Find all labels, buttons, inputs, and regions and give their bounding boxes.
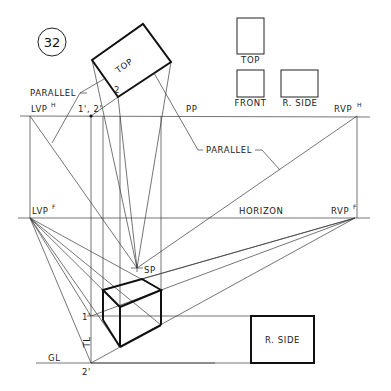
- lvp-f-superscript: F: [52, 203, 56, 210]
- point-1-2-marker: [89, 114, 92, 117]
- perspective-drawing: 32 TOP FRONT R. SIDE: [0, 0, 391, 391]
- top-view-box: [237, 18, 264, 54]
- rvp-f-superscript: F: [353, 203, 357, 210]
- plan-view: TOP 2: [92, 24, 171, 97]
- lvp-h-superscript: H: [51, 101, 56, 108]
- picture-plane-line: [20, 116, 370, 117]
- top-view-label: TOP: [240, 55, 260, 65]
- perspective-box: [103, 279, 161, 347]
- side-view-box: [281, 70, 318, 97]
- picture-plane-label: PP: [186, 104, 197, 114]
- figure-number: 32: [44, 35, 61, 50]
- parallel-construction: [30, 97, 357, 268]
- parallel-annotations: PARALLEL PARALLEL: [30, 73, 280, 170]
- rvp-h-superscript: H: [357, 101, 362, 108]
- side-view-label: R. SIDE: [282, 98, 317, 108]
- point-1-label: 1': [82, 312, 91, 322]
- figure-number-badge: 32: [38, 28, 66, 56]
- plan-top-label: TOP: [113, 56, 135, 76]
- side-view-reference-label: R. SIDE: [265, 335, 300, 345]
- lvp-f-label: LVP: [32, 206, 49, 216]
- point-labels: LVP H 1', 2' PP RVP H LVP F HORIZON RVP …: [31, 101, 362, 377]
- point-1-2-label: 1', 2': [78, 104, 103, 114]
- station-point-label: SP: [144, 265, 156, 275]
- front-view-box: [237, 70, 264, 97]
- reference-lines: [18, 116, 370, 363]
- vertical-projectors: [30, 116, 357, 363]
- orthographic-views: TOP FRONT R. SIDE: [234, 18, 318, 108]
- front-view-label: FRONT: [234, 98, 266, 108]
- lvp-h-label: LVP: [31, 104, 48, 114]
- rvp-h-label: RVP: [334, 104, 352, 114]
- side-view-reference: R. SIDE: [251, 316, 314, 363]
- true-length-label: TL: [82, 336, 92, 348]
- plan-corner-label: 2: [114, 85, 120, 95]
- ground-line-label: GL: [48, 353, 61, 363]
- parallel-label-left: PARALLEL: [30, 88, 76, 98]
- horizon-label: HORIZON: [239, 206, 284, 216]
- point-2-label: 2': [82, 367, 91, 377]
- parallel-label-right: PARALLEL: [206, 145, 252, 155]
- rvp-f-label: RVP: [331, 206, 349, 216]
